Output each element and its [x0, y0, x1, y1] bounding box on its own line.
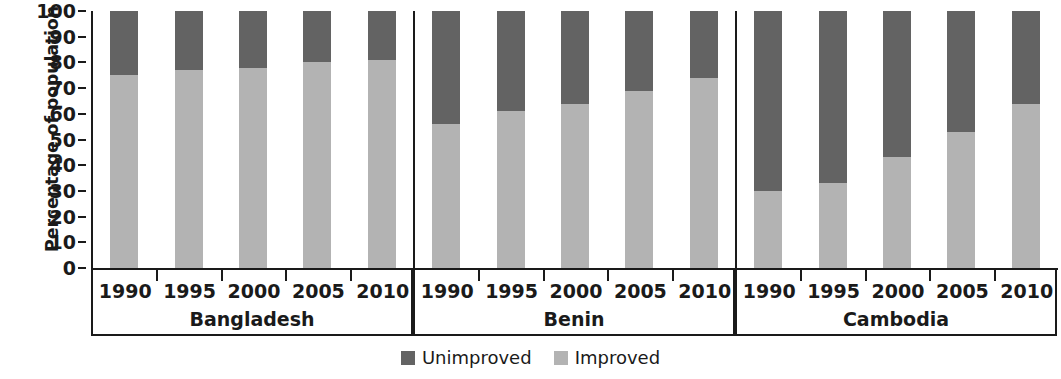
- category-box-benin: 19901995200020052010Benin: [413, 270, 735, 336]
- x-axis-year-label: 2005: [930, 282, 994, 301]
- bar-segment-improved[interactable]: [110, 75, 138, 268]
- bar-segment-unimproved[interactable]: [625, 11, 653, 91]
- y-axis-tick-mark: [78, 61, 86, 63]
- y-axis-tick-label: 10: [50, 233, 76, 252]
- bar-segment-unimproved[interactable]: [690, 11, 718, 78]
- legend-swatch-icon: [554, 351, 568, 365]
- x-axis-year-label: 1990: [415, 282, 479, 301]
- bar-group-bangladesh: [92, 11, 414, 268]
- x-axis-country-label: Bangladesh: [93, 308, 411, 330]
- stacked-bar[interactable]: [690, 11, 718, 268]
- x-axis-tick-mark: [478, 270, 480, 281]
- x-axis-tick-mark: [994, 270, 996, 281]
- group-separator: [735, 11, 737, 268]
- y-axis-tick-mark: [78, 87, 86, 89]
- stacked-bar[interactable]: [110, 11, 138, 268]
- x-axis-year-label: 2005: [608, 282, 672, 301]
- legend-item-improved[interactable]: Improved: [554, 349, 660, 367]
- x-axis-country-label: Cambodia: [737, 308, 1055, 330]
- bar-segment-unimproved[interactable]: [175, 11, 203, 70]
- stacked-bar[interactable]: [497, 11, 525, 268]
- bar-segment-improved[interactable]: [690, 78, 718, 268]
- stacked-bar[interactable]: [819, 11, 847, 268]
- bar-segment-improved[interactable]: [497, 111, 525, 268]
- x-axis-country-label: Benin: [415, 308, 733, 330]
- legend-swatch-icon: [401, 351, 415, 365]
- bar-segment-unimproved[interactable]: [883, 11, 911, 157]
- y-axis-tick-label: 30: [50, 181, 76, 200]
- stacked-bar[interactable]: [947, 11, 975, 268]
- x-axis-year-label: 2010: [995, 282, 1059, 301]
- x-axis-tick-mark: [156, 270, 158, 281]
- category-axis-band: 19901995200020052010Bangladesh1990199520…: [91, 270, 1058, 336]
- bar-segment-improved[interactable]: [175, 70, 203, 268]
- x-axis-tick-mark: [221, 270, 223, 281]
- bar-segment-improved[interactable]: [239, 68, 267, 268]
- y-axis-tick-label: 50: [50, 130, 76, 149]
- bar-group-cambodia: [736, 11, 1058, 268]
- x-axis-year-label: 2010: [673, 282, 737, 301]
- y-axis-tick-mark: [78, 267, 86, 269]
- stacked-bar[interactable]: [1012, 11, 1040, 268]
- x-axis-year-label: 1995: [479, 282, 543, 301]
- bar-segment-improved[interactable]: [368, 60, 396, 268]
- bar-segment-improved[interactable]: [754, 191, 782, 268]
- bar-segment-unimproved[interactable]: [368, 11, 396, 60]
- y-axis-tick-label: 20: [50, 207, 76, 226]
- bar-group-benin: [414, 11, 736, 268]
- stacked-bar[interactable]: [368, 11, 396, 268]
- bar-segment-improved[interactable]: [432, 124, 460, 268]
- y-axis-tick-mark: [78, 10, 86, 12]
- x-axis-year-label: 1995: [801, 282, 865, 301]
- bar-segment-unimproved[interactable]: [239, 11, 267, 68]
- y-axis-tick-label: 90: [50, 27, 76, 46]
- category-box-cambodia: 19901995200020052010Cambodia: [735, 270, 1057, 336]
- stacked-bar[interactable]: [239, 11, 267, 268]
- bar-segment-unimproved[interactable]: [303, 11, 331, 62]
- stacked-bar[interactable]: [561, 11, 589, 268]
- x-axis-year-label: 1995: [157, 282, 221, 301]
- bar-segment-unimproved[interactable]: [110, 11, 138, 75]
- legend-item-unimproved[interactable]: Unimproved: [401, 349, 532, 367]
- bar-segment-unimproved[interactable]: [561, 11, 589, 104]
- x-axis-year-label: 2000: [866, 282, 930, 301]
- group-separator: [413, 11, 415, 268]
- x-axis-year-label: 2000: [222, 282, 286, 301]
- bar-segment-improved[interactable]: [883, 157, 911, 268]
- bar-segment-improved[interactable]: [561, 104, 589, 268]
- y-axis-tick-mark: [78, 241, 86, 243]
- y-axis-tick-mark: [78, 36, 86, 38]
- x-axis-year-label: 2010: [351, 282, 415, 301]
- x-axis-year-label: 2005: [286, 282, 350, 301]
- bar-segment-unimproved[interactable]: [1012, 11, 1040, 104]
- stacked-bar[interactable]: [432, 11, 460, 268]
- bar-segment-improved[interactable]: [819, 183, 847, 268]
- stacked-bar[interactable]: [883, 11, 911, 268]
- bar-segment-unimproved[interactable]: [754, 11, 782, 191]
- y-axis-tick-label: 100: [36, 2, 76, 21]
- x-axis-tick-mark: [543, 270, 545, 281]
- bar-segment-unimproved[interactable]: [819, 11, 847, 183]
- bar-segment-unimproved[interactable]: [497, 11, 525, 111]
- bar-segment-improved[interactable]: [625, 91, 653, 268]
- bar-segment-unimproved[interactable]: [432, 11, 460, 124]
- stacked-bar[interactable]: [625, 11, 653, 268]
- y-axis-tick-label: 70: [50, 79, 76, 98]
- y-axis-tick-mark: [78, 190, 86, 192]
- stacked-bar[interactable]: [754, 11, 782, 268]
- bar-segment-unimproved[interactable]: [947, 11, 975, 132]
- x-axis-tick-mark: [672, 270, 674, 281]
- y-axis-tick-label: 60: [50, 104, 76, 123]
- stacked-bar[interactable]: [175, 11, 203, 268]
- x-axis-tick-mark: [350, 270, 352, 281]
- x-axis-year-label: 1990: [93, 282, 157, 301]
- stacked-bar[interactable]: [303, 11, 331, 268]
- bar-segment-improved[interactable]: [947, 132, 975, 268]
- y-axis-tick-label: 40: [50, 156, 76, 175]
- bar-segment-improved[interactable]: [303, 62, 331, 268]
- bar-segment-improved[interactable]: [1012, 104, 1040, 268]
- legend-label: Improved: [575, 349, 660, 367]
- y-axis-tick-mark: [78, 164, 86, 166]
- category-box-bangladesh: 19901995200020052010Bangladesh: [91, 270, 413, 336]
- x-axis-tick-mark: [800, 270, 802, 281]
